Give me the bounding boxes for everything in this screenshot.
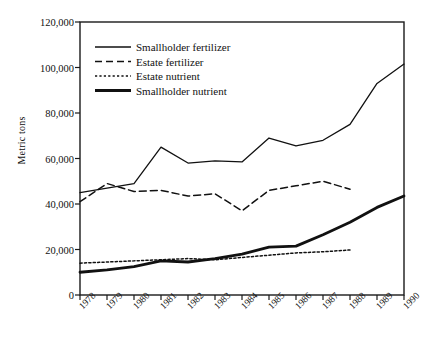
plot-area: Smallholder fertilizerEstate fertilizerE… [0,0,424,338]
legend-label: Smallholder nutrient [136,85,227,97]
legend-label: Estate nutrient [136,70,200,82]
series-line [80,250,350,263]
legend-label: Estate fertilizer [136,56,204,68]
legend-label: Smallholder fertilizer [136,41,231,53]
series-line [80,64,404,193]
line-chart: Metric tons 020,00040,00060,00080,000100… [0,0,424,338]
